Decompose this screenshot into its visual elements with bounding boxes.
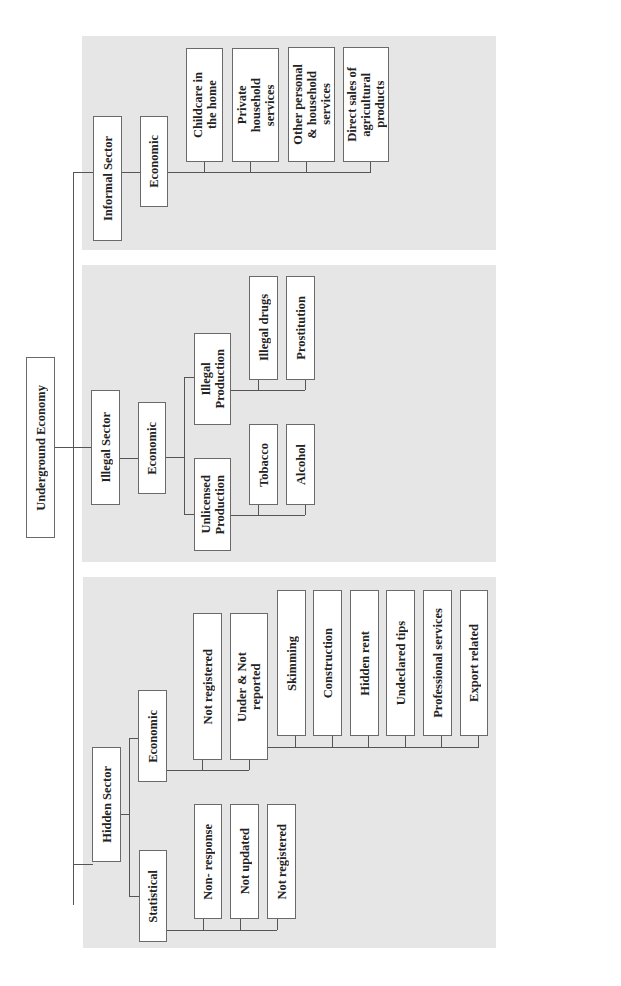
connector xyxy=(267,747,479,748)
connector xyxy=(129,896,139,897)
connector xyxy=(184,377,185,515)
node-label: Prostitution xyxy=(294,296,308,360)
node-label: Non- response xyxy=(201,824,215,900)
connector xyxy=(478,735,479,747)
node-hidden-statistical: Statistical xyxy=(139,850,167,942)
node-label: Private household services xyxy=(235,78,277,132)
node-other-personal-household-services: Other personal & household services xyxy=(288,47,335,162)
connector xyxy=(230,390,305,391)
node-label: Not updated xyxy=(238,828,252,894)
node-unlicensed-production: Unlicensed Production xyxy=(194,458,231,551)
connector xyxy=(258,379,259,390)
node-direct-sales-agricultural-products: Direct sales of agricultural products xyxy=(343,47,389,162)
connector xyxy=(167,172,371,173)
node-statistical-not-registered: Not registered xyxy=(267,804,296,919)
node-illegal-economic: Economic xyxy=(138,402,166,494)
node-prostitution: Prostitution xyxy=(286,276,315,380)
connector xyxy=(184,377,194,378)
node-label: Informal Sector xyxy=(101,136,115,221)
node-label: Not registered xyxy=(201,649,215,725)
connector xyxy=(73,172,93,173)
node-hidden-sector: Hidden Sector xyxy=(92,747,121,862)
node-label: Illegal Production xyxy=(199,349,227,409)
node-informal-sector: Informal Sector xyxy=(93,116,122,241)
connector xyxy=(305,504,306,515)
connector xyxy=(258,504,259,515)
connector xyxy=(368,735,369,747)
node-label: Skimming xyxy=(285,636,299,691)
node-label: Not registered xyxy=(275,824,289,900)
node-under-not-reported: Under & Not reported xyxy=(230,613,268,760)
connector xyxy=(405,735,406,747)
connector xyxy=(121,172,140,173)
connector xyxy=(73,864,93,865)
node-label: Unlicensed Production xyxy=(199,475,227,535)
connector xyxy=(73,172,74,905)
connector xyxy=(306,161,307,172)
node-label: Professional services xyxy=(431,608,445,718)
node-not-updated: Not updated xyxy=(230,804,259,919)
node-skimming: Skimming xyxy=(277,590,306,736)
connector xyxy=(165,457,184,458)
connector xyxy=(204,161,205,172)
connector xyxy=(370,161,371,172)
node-private-household-services: Private household services xyxy=(232,48,279,162)
node-illegal-sector: Illegal Sector xyxy=(91,390,120,505)
node-undeclared-tips: Undeclared tips xyxy=(386,590,415,736)
node-label: Other personal & household services xyxy=(291,64,333,145)
node-non-response: Non- response xyxy=(194,804,222,919)
node-professional-services: Professional services xyxy=(423,590,452,736)
connector xyxy=(119,458,138,459)
node-construction: Construction xyxy=(313,590,342,736)
node-illegal-production: Illegal Production xyxy=(194,333,231,425)
connector xyxy=(305,379,306,390)
node-label: Hidden Sector xyxy=(100,766,114,843)
connector xyxy=(166,930,277,931)
node-label: Export related xyxy=(467,624,481,702)
node-label: Economic xyxy=(145,422,159,475)
connector xyxy=(277,918,278,930)
connector xyxy=(129,738,130,896)
node-label: Illegal drugs xyxy=(257,294,271,361)
node-label: Tobacco xyxy=(257,443,271,487)
connector xyxy=(203,918,204,930)
node-label: Undeclared tips xyxy=(394,621,408,705)
connector xyxy=(120,814,129,815)
node-label: Direct sales of agricultural products xyxy=(345,67,387,142)
node-label: Economic xyxy=(147,135,161,188)
node-childcare-in-the-home: Childcare in the home xyxy=(186,48,223,162)
connector xyxy=(441,735,442,747)
node-label: Under & Not reported xyxy=(235,652,263,722)
connector xyxy=(332,735,333,747)
connector xyxy=(240,918,241,930)
node-label: Hidden rent xyxy=(358,631,372,696)
connector xyxy=(250,161,251,172)
node-label: Economic xyxy=(146,710,160,763)
node-label: Underground Economy xyxy=(34,385,48,511)
root-node-underground-economy: Underground Economy xyxy=(26,357,55,538)
node-label: Illegal Sector xyxy=(99,412,113,482)
node-illegal-drugs: Illegal drugs xyxy=(249,276,278,380)
node-label: Alcohol xyxy=(294,444,308,485)
node-alcohol: Alcohol xyxy=(286,424,315,505)
node-tobacco: Tobacco xyxy=(249,424,278,505)
connector xyxy=(184,514,194,515)
connector xyxy=(249,759,250,770)
connector xyxy=(202,759,203,770)
node-label: Construction xyxy=(321,628,335,698)
node-hidden-economic: Economic xyxy=(138,690,167,782)
connector xyxy=(230,515,305,516)
connector xyxy=(295,735,296,747)
node-economic-not-registered: Not registered xyxy=(193,613,222,760)
node-label: Childcare in the home xyxy=(191,72,219,138)
node-export-related: Export related xyxy=(460,590,488,736)
node-label: Statistical xyxy=(146,870,160,923)
connector xyxy=(166,770,249,771)
node-hidden-rent: Hidden rent xyxy=(350,590,379,736)
node-informal-economic: Economic xyxy=(140,116,168,207)
